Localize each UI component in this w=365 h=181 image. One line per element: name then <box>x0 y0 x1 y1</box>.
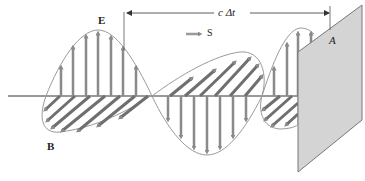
em-wave-diagram: E B S c Δt A <box>0 0 365 181</box>
poynting-label: S <box>207 28 213 38</box>
distance-label: c Δt <box>218 7 235 18</box>
magnetic-field-lobe-1 <box>42 96 150 132</box>
magnetic-field-lobe-3 <box>261 96 298 129</box>
magnetic-field-label: B <box>47 141 54 152</box>
electric-field-lobe-2 <box>152 96 262 155</box>
diagram-canvas <box>0 0 365 181</box>
electric-field-lobe-1 <box>46 30 152 96</box>
electric-field-label: E <box>98 15 105 26</box>
area-label: A <box>329 35 336 46</box>
magnetic-field-lobe-2 <box>152 52 264 96</box>
